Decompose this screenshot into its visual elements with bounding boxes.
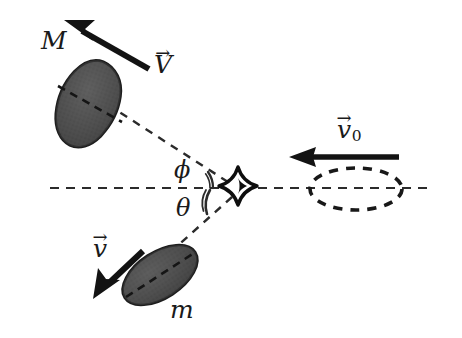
angle-theta-arc xyxy=(202,190,210,214)
velocity-V-arrow xyxy=(64,20,149,69)
label-mass-M: M xyxy=(41,28,67,53)
mass-M-blob xyxy=(45,52,131,157)
label-mass-m: m xyxy=(170,297,194,322)
collision-burst xyxy=(219,167,257,205)
label-angle-phi: ϕ xyxy=(174,158,190,182)
label-velocity-v0-subscript: 0 xyxy=(352,127,362,145)
label-angle-theta: θ xyxy=(176,196,190,220)
physics-collision-diagram: M → V → v 0 ϕ θ → v m xyxy=(0,0,462,338)
label-velocity-v0: → v 0 xyxy=(337,117,362,145)
label-velocity-V: → V xyxy=(154,52,172,77)
label-mass-M-text: M xyxy=(41,26,67,55)
velocity-v0-arrow xyxy=(289,147,399,167)
trajectory-dashed-to-M xyxy=(110,106,228,182)
vector-accent-v: → xyxy=(92,228,107,246)
label-velocity-v: → v xyxy=(93,236,107,261)
angle-phi-arc xyxy=(206,172,213,188)
vector-accent-v0: → xyxy=(336,109,351,127)
label-mass-m-text: m xyxy=(170,295,194,324)
label-angle-theta-text: θ xyxy=(176,194,190,222)
label-angle-phi-text: ϕ xyxy=(174,156,190,184)
diagram-canvas xyxy=(0,0,462,338)
vector-accent-V: → xyxy=(155,44,170,62)
